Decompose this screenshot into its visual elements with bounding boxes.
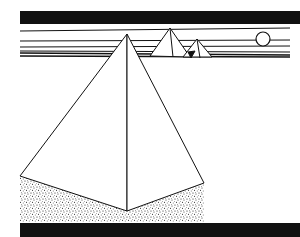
top-bar — [20, 11, 300, 24]
pyramid-illustration — [0, 0, 300, 237]
sun — [256, 32, 270, 46]
bottom-bar — [20, 223, 300, 237]
small-pyramids — [150, 28, 212, 58]
large-pyramid — [20, 34, 204, 211]
